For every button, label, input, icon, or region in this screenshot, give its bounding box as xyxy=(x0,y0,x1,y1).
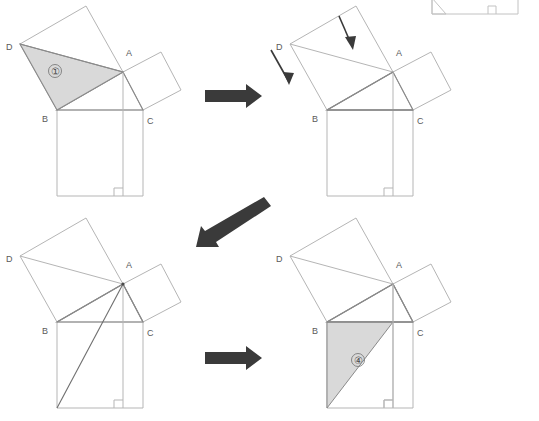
vertex-label-d: D xyxy=(6,42,13,52)
vertex-label-b: B xyxy=(42,326,48,336)
vertex-label-b: B xyxy=(312,326,318,336)
segment-ba xyxy=(327,72,393,110)
vertex-label-c: C xyxy=(417,116,424,126)
arrow-shear-left xyxy=(271,50,294,85)
vertex-label-d: D xyxy=(6,254,13,264)
shaded-region-one xyxy=(20,44,123,110)
vertex-label-d: D xyxy=(276,42,283,52)
segment-ba xyxy=(327,284,393,322)
arrow-right-bottom xyxy=(205,346,262,370)
vertex-label-c: C xyxy=(147,328,154,338)
vertex-label-c: C xyxy=(417,328,424,338)
panel-bottom-left: D A B C xyxy=(6,218,181,408)
arrow-diagonal-middle xyxy=(196,197,271,247)
vertex-label-a: A xyxy=(126,48,132,58)
panel-bottom-right: ④ D A B C xyxy=(276,218,451,408)
arrow-shear-right xyxy=(339,16,356,50)
vertex-dot-a xyxy=(121,282,124,285)
vertex-label-d: D xyxy=(276,254,283,264)
pythagoras-proof-diagram: ① D A B C D A B C D A B C xyxy=(0,0,539,421)
region-label-four: ④ xyxy=(354,355,363,366)
region-label-one: ① xyxy=(51,66,60,77)
arrow-right-top xyxy=(205,84,262,108)
panel-top-right: D A B C xyxy=(276,6,451,196)
vertex-label-a: A xyxy=(396,260,402,270)
segment-ac xyxy=(393,284,413,322)
segment-da xyxy=(290,44,393,72)
vertex-label-c: C xyxy=(147,116,154,126)
segment-da xyxy=(290,256,393,284)
cropped-square-fragment-top-right xyxy=(432,0,518,14)
vertex-label-a: A xyxy=(396,48,402,58)
vertex-label-b: B xyxy=(312,114,318,124)
vertex-label-b: B xyxy=(42,114,48,124)
vertex-label-a: A xyxy=(126,260,132,270)
right-angle-marker-icon xyxy=(384,400,393,408)
segment-ac xyxy=(123,284,143,322)
segment-da xyxy=(20,256,123,284)
figure-root: ① D A B C D A B C D A B C xyxy=(0,0,539,421)
panel-top-left: ① D A B C xyxy=(6,6,181,196)
